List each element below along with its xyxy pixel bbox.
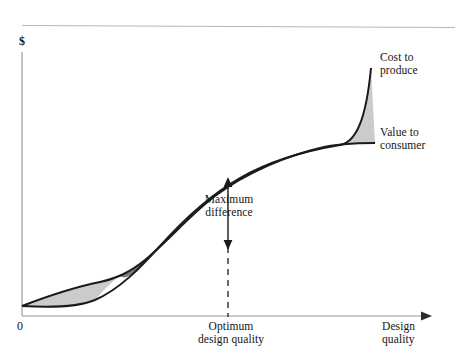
optimum-design-quality-label: Optimum design quality bbox=[186, 320, 276, 346]
cost-to-produce-label: Cost to produce bbox=[380, 51, 418, 77]
value-to-consumer-curve bbox=[22, 143, 375, 306]
value-to-consumer-label: Value to consumer bbox=[380, 126, 426, 152]
top-rule bbox=[22, 26, 455, 28]
maximum-difference-label: Maximum difference bbox=[196, 193, 262, 219]
origin-label: 0 bbox=[17, 320, 23, 333]
y-axis-label: $ bbox=[19, 35, 25, 48]
x-axis-arrowhead bbox=[421, 312, 432, 321]
max-difference-arrowhead-up bbox=[224, 177, 233, 187]
x-axis-label: Design quality bbox=[382, 320, 415, 346]
cost-to-produce-curve bbox=[22, 68, 371, 307]
max-difference-arrowhead-down bbox=[224, 240, 233, 250]
